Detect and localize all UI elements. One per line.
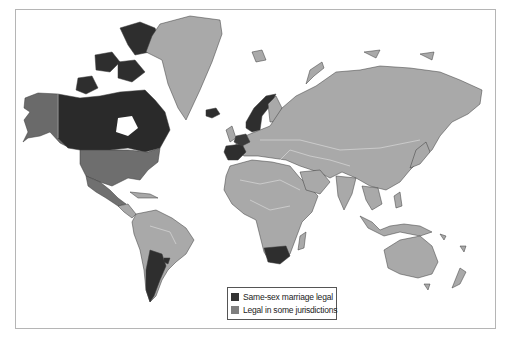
map-legend: Same-sex marriage legal Legal in some ju… [227,287,337,320]
legend-item-legal: Same-sex marriage legal [231,290,333,303]
legend-swatch-legal [231,293,239,301]
region-iberia [224,144,246,160]
legend-item-partial: Legal in some jurisdictions [231,303,333,316]
legend-label: Same-sex marriage legal [243,292,333,302]
legend-swatch-partial [231,306,239,314]
region-canada [58,90,170,152]
region-iceland [206,108,220,118]
region-australia [384,236,438,278]
region-south-america [132,210,194,302]
region-south-africa [264,246,290,264]
legend-label: Legal in some jurisdictions [243,305,337,315]
